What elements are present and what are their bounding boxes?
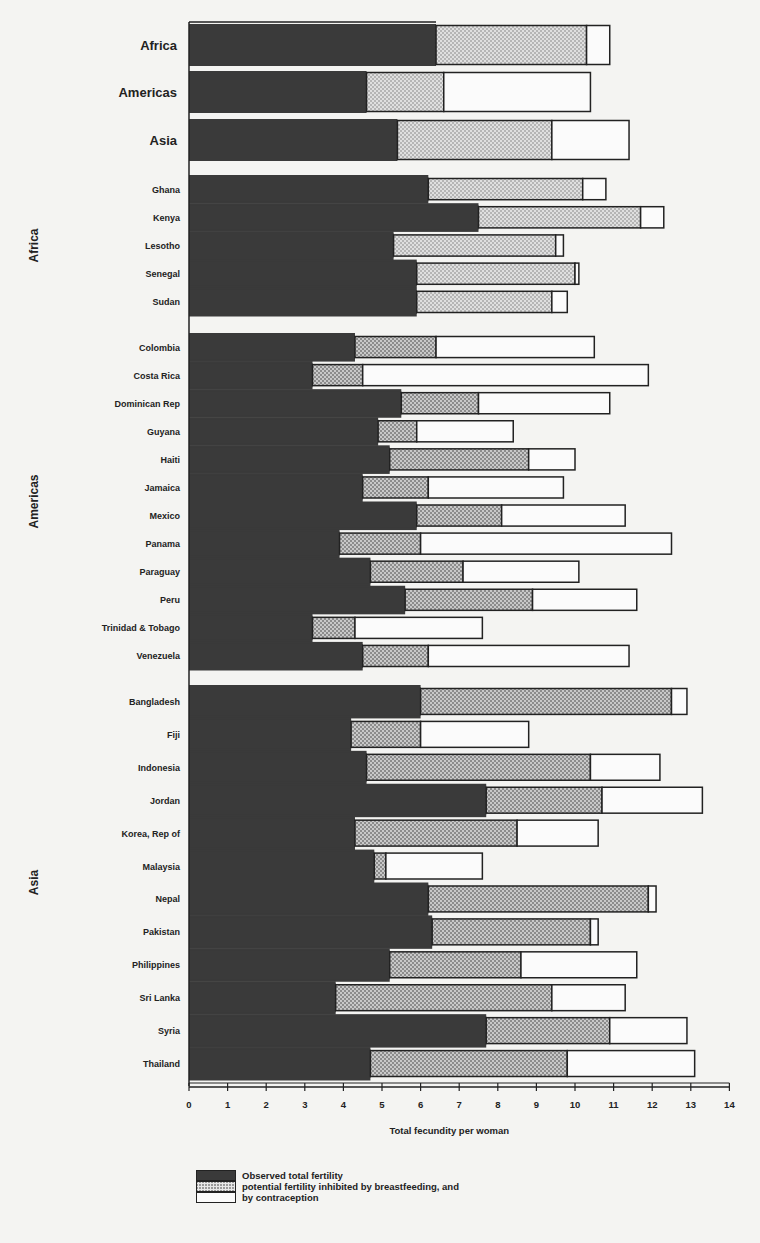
- country-bar: [189, 687, 687, 716]
- breastfeeding-segment: [355, 820, 517, 846]
- svg-text:6: 6: [418, 1099, 423, 1110]
- fertility-segment: [189, 983, 336, 1012]
- contraception-segment: [590, 754, 659, 780]
- contraception-segment: [602, 787, 702, 813]
- svg-text:Trinidad & Tobago: Trinidad & Tobago: [102, 623, 181, 633]
- fertility-segment: [189, 71, 367, 113]
- fertility-segment: [189, 177, 428, 201]
- contraception-segment: [529, 449, 575, 470]
- breastfeeding-segment: [390, 449, 529, 470]
- contraception-segment: [417, 421, 514, 442]
- fertility-swatch-icon: [196, 1170, 236, 1181]
- summary-bar-asia: [189, 119, 629, 161]
- breastfeeding-segment: [417, 291, 552, 312]
- country-bar: [189, 560, 579, 584]
- x-axis-label: Total fecundity per woman: [389, 1125, 509, 1136]
- contraception-segment: [610, 1018, 687, 1044]
- country-bar: [189, 177, 606, 201]
- svg-text:Kenya: Kenya: [153, 213, 181, 223]
- breastfeeding-segment: [370, 1051, 567, 1077]
- contraception-segment: [517, 820, 598, 846]
- svg-text:13: 13: [686, 1099, 697, 1110]
- legend-item-breastfeeding: potential fertility inhibited by breastf…: [196, 1181, 459, 1192]
- fertility-segment: [189, 532, 340, 556]
- fertility-segment: [189, 119, 397, 161]
- breastfeeding-segment: [421, 689, 672, 715]
- svg-text:4: 4: [341, 1099, 347, 1110]
- country-bar: [189, 852, 482, 881]
- breastfeeding-segment: [378, 421, 417, 442]
- legend: Observed total fertility potential ferti…: [196, 1170, 459, 1203]
- svg-text:Dominican Rep: Dominican Rep: [114, 399, 180, 409]
- svg-text:Mexico: Mexico: [149, 511, 180, 521]
- breastfeeding-segment: [486, 1018, 610, 1044]
- country-bar: [189, 644, 629, 668]
- contraception-segment: [556, 235, 564, 256]
- country-bar: [189, 363, 648, 387]
- svg-text:Senegal: Senegal: [145, 269, 180, 279]
- contraception-segment: [648, 886, 656, 912]
- fertility-segment: [189, 885, 428, 914]
- svg-text:Haiti: Haiti: [160, 455, 180, 465]
- country-bar: [189, 885, 656, 914]
- contraception-segment: [444, 73, 591, 112]
- svg-text:Africa: Africa: [140, 38, 178, 53]
- svg-text:Philippines: Philippines: [132, 960, 180, 970]
- breastfeeding-segment: [436, 26, 587, 65]
- svg-text:12: 12: [647, 1099, 658, 1110]
- contraception-segment: [672, 689, 687, 715]
- svg-text:Guyana: Guyana: [147, 427, 181, 437]
- breastfeeding-segment: [486, 787, 602, 813]
- svg-text:Indonesia: Indonesia: [138, 763, 181, 773]
- legend-item-fertility: Observed total fertility: [196, 1170, 459, 1181]
- breastfeeding-segment: [336, 985, 552, 1011]
- svg-text:Bangladesh: Bangladesh: [129, 697, 180, 707]
- svg-text:Lesotho: Lesotho: [145, 241, 181, 251]
- fertility-segment: [189, 950, 390, 979]
- fertility-segment: [189, 786, 486, 815]
- svg-text:Syria: Syria: [158, 1026, 181, 1036]
- svg-text:Jamaica: Jamaica: [144, 483, 181, 493]
- fertility-segment: [189, 1049, 370, 1078]
- country-bar: [189, 419, 513, 443]
- country-bar: [189, 205, 664, 229]
- fertility-segment: [189, 644, 363, 668]
- svg-text:Asia: Asia: [150, 133, 178, 148]
- breastfeeding-segment: [394, 235, 556, 256]
- country-bar: [189, 391, 610, 415]
- svg-text:8: 8: [495, 1099, 500, 1110]
- breastfeeding-segment: [370, 561, 463, 582]
- svg-text:Africa: Africa: [27, 228, 41, 262]
- legend-item-contraception: by contraception: [196, 1192, 459, 1203]
- contraception-segment: [428, 477, 563, 498]
- svg-text:7: 7: [457, 1099, 462, 1110]
- breastfeeding-segment: [397, 121, 551, 160]
- country-bar: [189, 753, 660, 782]
- svg-text:Sri Lanka: Sri Lanka: [139, 993, 181, 1003]
- legend-label-fertility: Observed total fertility: [242, 1170, 343, 1181]
- svg-text:14: 14: [724, 1099, 735, 1110]
- svg-text:Panama: Panama: [145, 539, 181, 549]
- fertility-segment: [189, 447, 390, 471]
- country-bar: [189, 616, 482, 640]
- country-bar: [189, 233, 563, 257]
- breastfeeding-segment: [367, 73, 444, 112]
- breastfeeding-swatch-icon: [196, 1181, 236, 1192]
- svg-text:10: 10: [570, 1099, 581, 1110]
- breastfeeding-segment: [313, 365, 363, 386]
- fecundity-chart: AfricaAmericasAsiaGhanaKenyaLesothoSeneg…: [0, 0, 760, 1243]
- contraception-segment: [479, 393, 610, 414]
- breastfeeding-segment: [363, 645, 429, 666]
- fertility-segment: [189, 475, 363, 499]
- country-bar: [189, 917, 598, 946]
- breastfeeding-segment: [479, 207, 641, 228]
- contraception-segment: [355, 617, 482, 638]
- contraception-segment: [421, 533, 672, 554]
- country-bar: [189, 983, 625, 1012]
- country-bar: [189, 950, 637, 979]
- contraception-segment: [421, 721, 529, 747]
- fertility-segment: [189, 205, 479, 229]
- svg-text:1: 1: [225, 1099, 231, 1110]
- svg-text:Sudan: Sudan: [152, 297, 180, 307]
- country-bar: [189, 335, 594, 359]
